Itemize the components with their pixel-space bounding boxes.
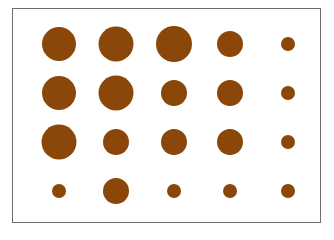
bubble-r3-c1	[42, 125, 77, 160]
bubble-r1-c2	[99, 27, 134, 62]
bubble-r2-c3	[161, 80, 187, 106]
bubble-r2-c4	[217, 80, 243, 106]
bubble-r1-c5	[281, 37, 295, 51]
bubble-r4-c2	[103, 178, 129, 204]
bubble-r2-c5	[281, 86, 295, 100]
bubble-r2-c1	[42, 76, 76, 110]
bubble-r3-c3	[161, 129, 187, 155]
bubble-r2-c2	[99, 76, 134, 111]
bubble-r1-c3	[156, 26, 192, 62]
bubble-r3-c2	[103, 129, 129, 155]
bubble-r4-c5	[281, 184, 295, 198]
bubble-r3-c5	[281, 135, 295, 149]
bubble-r3-c4	[217, 129, 243, 155]
bubble-r1-c1	[42, 27, 76, 61]
bubble-r4-c1	[52, 184, 66, 198]
bubble-r4-c3	[167, 184, 181, 198]
bubble-r4-c4	[223, 184, 237, 198]
bubble-r1-c4	[217, 31, 243, 57]
